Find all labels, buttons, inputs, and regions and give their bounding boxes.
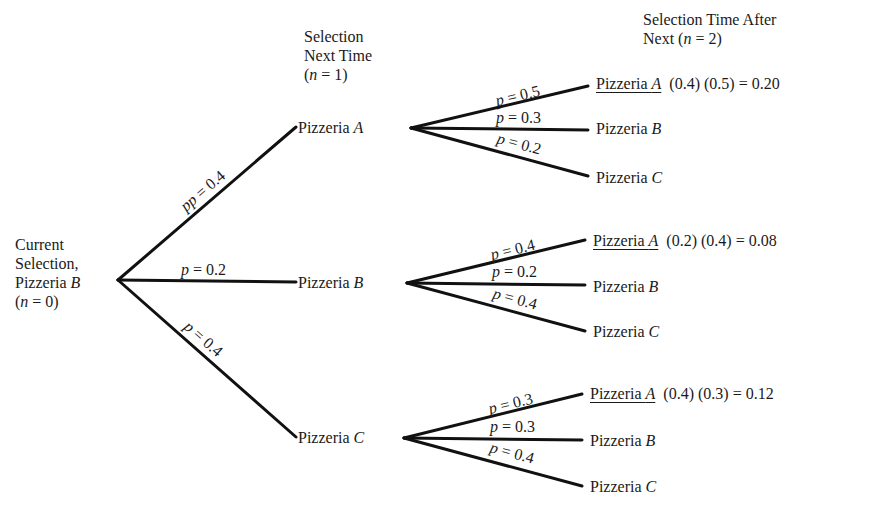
root-label-line2: Selection, (15, 254, 80, 273)
prob-label-a-a: p = 0.5 (493, 82, 542, 110)
level1-header-line1: Selection (304, 27, 372, 46)
level2-node-a-b: Pizzeria B (596, 119, 661, 138)
level1-header: Selection Next Time (n = 1) (304, 27, 372, 84)
prob-label-c-a: p = 0.3 (486, 390, 535, 418)
prob-label-b-c: p = 0.4 (490, 284, 539, 313)
level2-node-c-c: Pizzeria C (590, 477, 656, 496)
level1-header-line2: Next Time (304, 46, 372, 65)
path-probability-c-a: (0.4) (0.3) = 0.12 (663, 385, 773, 402)
prob-label-b-b: p = 0.2 (491, 263, 537, 281)
level2-node-a-a: Pizzeria A (0.4) (0.5) = 0.20 (596, 74, 780, 93)
level2-node-c-b: Pizzeria B (590, 431, 655, 450)
branch-root-to-a (118, 127, 296, 280)
level2-header-line1: Selection Time After (643, 10, 776, 29)
level2-header-line2: Next (n = 2) (643, 29, 776, 48)
prob-label-c-b: p = 0.3 (489, 418, 535, 436)
prob-label-b-a: p = 0.4 (488, 236, 537, 264)
path-probability-b-a: (0.2) (0.4) = 0.08 (666, 232, 776, 249)
level2-header: Selection Time After Next (n = 2) (643, 10, 776, 48)
prob-label-root-b: p = 0.2 (180, 261, 226, 279)
root-label-line4: (n = 0) (15, 292, 80, 311)
probability-tree-diagram: pp = 0.4 p = 0.2 p = 0.4 p = 0.5 p = 0.3… (0, 0, 874, 509)
root-label-line1: Current (15, 235, 80, 254)
branch-root-to-c (118, 280, 296, 437)
path-probability-a-a: (0.4) (0.5) = 0.20 (669, 75, 779, 92)
prob-label-a-b: p = 0.3 (495, 109, 541, 127)
level1-header-line3: (n = 1) (304, 65, 372, 84)
level1-node-a: Pizzeria A (298, 118, 363, 137)
level2-node-b-a: Pizzeria A (0.2) (0.4) = 0.08 (593, 231, 777, 250)
level2-node-b-c: Pizzeria C (593, 322, 659, 341)
root-label: Current Selection, Pizzeria B (n = 0) (15, 235, 80, 311)
level2-node-c-a: Pizzeria A (0.4) (0.3) = 0.12 (590, 384, 774, 403)
level2-node-a-c: Pizzeria C (596, 168, 662, 187)
level1-node-b: Pizzeria B (298, 273, 363, 292)
branch-root-to-b (118, 280, 296, 282)
prob-label-a-c: p = 0.2 (494, 129, 543, 158)
root-label-line3: Pizzeria B (15, 273, 80, 292)
level1-node-c: Pizzeria C (298, 428, 364, 447)
level2-node-b-b: Pizzeria B (593, 277, 658, 296)
